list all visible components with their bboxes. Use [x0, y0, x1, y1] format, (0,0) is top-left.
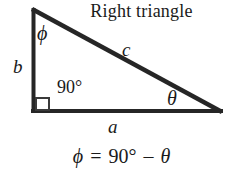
right-triangle-figure: Right triangle ϕ b c 90° θ a ϕ = 90° – θ: [0, 0, 243, 177]
equation-rhs-theta: θ: [160, 145, 170, 167]
label-phi-apex-angle: ϕ: [37, 23, 47, 43]
equation-equals-sign: =: [88, 145, 103, 167]
label-side-c: c: [122, 40, 130, 59]
equation-90-degrees: 90°: [108, 145, 136, 167]
right-angle-marker: [36, 98, 49, 110]
label-side-a: a: [108, 117, 118, 136]
equation-minus-sign: –: [141, 145, 155, 167]
label-right-angle-90: 90°: [57, 78, 82, 96]
label-side-b: b: [13, 57, 23, 76]
angle-relation-equation: ϕ = 90° – θ: [0, 146, 243, 166]
label-theta-angle: θ: [167, 88, 177, 108]
equation-lhs-phi: ϕ: [73, 145, 83, 167]
figure-title: Right triangle: [0, 2, 243, 20]
